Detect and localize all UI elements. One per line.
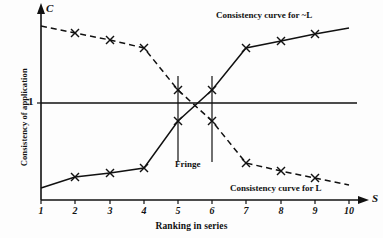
- x-axis-tick-label-8: 8: [279, 206, 284, 216]
- chart-plot-area: [0, 0, 383, 238]
- x-axis: [41, 196, 369, 204]
- x-axis-tick-label-5: 5: [176, 206, 181, 216]
- x-axis-tick-label-9: 9: [313, 206, 318, 216]
- y-axis-tick-label-1: 1: [28, 96, 34, 107]
- y-axis-title: Consistency of application: [20, 42, 29, 192]
- x-axis-tick-label-10: 10: [344, 206, 354, 216]
- x-axis-letter: S: [372, 193, 378, 204]
- fringe-label: Fringe: [175, 160, 201, 169]
- x-axis-tick-label-2: 2: [73, 206, 78, 216]
- x-axis-title: Ranking in series: [0, 222, 383, 232]
- consistency-curves-figure: C S 1 Consistency of application 1 2 3 4…: [0, 0, 383, 238]
- lower-curve-label: Consistency curve for L: [230, 184, 322, 193]
- x-axis-tick-label-4: 4: [142, 206, 147, 216]
- x-axis-tick-label-3: 3: [108, 206, 113, 216]
- y-axis: [37, 3, 45, 200]
- upper-curve-label: Consistency curve for ~L: [216, 11, 312, 20]
- y-axis-letter: C: [46, 3, 53, 14]
- x-axis-tick-label-6: 6: [210, 206, 215, 216]
- x-axis-tick-label-7: 7: [244, 206, 249, 216]
- x-axis-tick-label-1: 1: [39, 206, 44, 216]
